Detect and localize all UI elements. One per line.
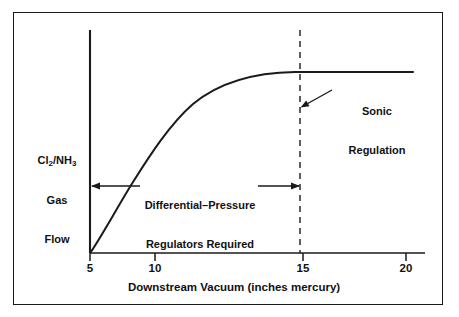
figure-container: 5 10 15 20 Downstream Vacuum (inches mer… xyxy=(0,0,459,317)
sonic-regulation-line1: Sonic xyxy=(333,105,421,118)
y-axis-label-line1: Cl2/NH3 xyxy=(26,154,88,168)
y-axis-label-sub-3: 3 xyxy=(72,159,76,168)
y-axis-label-line2: Gas xyxy=(26,194,88,207)
x-axis-title: Downstream Vacuum (inches mercury) xyxy=(128,281,338,295)
differential-pressure-annotation: Differential–Pressure Regulators Require… xyxy=(140,173,260,277)
differential-pressure-line1: Differential–Pressure xyxy=(140,199,260,212)
y-axis-label-nh: /NH xyxy=(53,154,72,166)
differential-pressure-line2: Regulators Required xyxy=(140,238,260,251)
x-tick-label-20: 20 xyxy=(396,262,416,276)
x-tick-label-15: 15 xyxy=(293,262,313,276)
y-axis-label-cl: Cl xyxy=(38,154,49,166)
sonic-regulation-annotation: Sonic Regulation xyxy=(333,79,421,183)
y-axis-label-line3: Flow xyxy=(26,233,88,246)
y-axis-label: Cl2/NH3 Gas Flow xyxy=(26,128,88,272)
sonic-regulation-line2: Regulation xyxy=(333,144,421,157)
sonic-regulation-leader-arrow xyxy=(301,90,333,108)
